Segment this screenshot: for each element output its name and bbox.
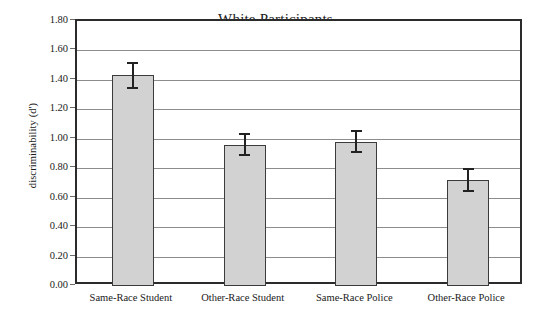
y-axis-ticks: 0.000.200.400.600.801.001.201.401.601.80 [0,19,75,284]
y-tick-label: 1.80 [50,14,68,25]
error-bar-stem [244,133,246,157]
error-bar-cap-lower [127,87,138,89]
error-bar [112,62,154,89]
bar [224,145,266,286]
y-tick-label: 1.60 [50,43,68,54]
error-bar-stem [132,62,134,89]
error-bar [224,133,266,157]
bar-chart-figure: White Participants discriminability (d')… [0,0,551,326]
bar [447,180,489,286]
gridline [77,50,520,51]
y-tick-label: 1.00 [50,131,68,142]
error-bar-cap-upper [127,62,138,64]
y-tick-label: 0.60 [50,190,68,201]
x-tick-label: Other-Race Police [428,292,505,303]
error-bar-stem [355,130,357,154]
bar [112,75,154,286]
error-bar-cap-lower [351,151,362,153]
error-bar-cap-upper [351,130,362,132]
error-bar [447,168,489,192]
error-bar-cap-upper [463,168,474,170]
y-tick-mark [70,284,75,285]
plot-area [75,19,522,284]
y-tick-label: 0.40 [50,220,68,231]
error-bar-stem [467,168,469,192]
y-tick-label: 1.20 [50,102,68,113]
y-tick-label: 0.00 [50,279,68,290]
error-bar-cap-lower [463,190,474,192]
y-tick-label: 0.80 [50,161,68,172]
x-tick-label: Other-Race Student [201,292,284,303]
y-tick-label: 0.20 [50,249,68,260]
x-tick-label: Same-Race Student [90,292,173,303]
bar [335,142,377,286]
y-tick-label: 1.40 [50,72,68,83]
error-bar-cap-upper [239,133,250,135]
error-bar [335,130,377,154]
x-tick-label: Same-Race Police [316,292,393,303]
x-axis-labels: Same-Race StudentOther-Race StudentSame-… [75,288,522,312]
error-bar-cap-lower [239,154,250,156]
